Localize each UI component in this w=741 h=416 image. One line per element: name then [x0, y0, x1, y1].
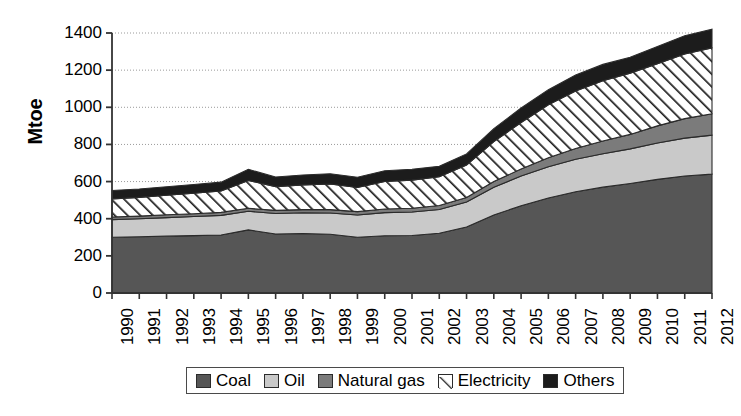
stacked-area-chart: Mtoe 1400120010008006004002000 199019911…	[0, 0, 741, 416]
oil-swatch	[264, 374, 279, 388]
x-tick-label: 1995	[255, 308, 272, 345]
electricity-swatch	[438, 374, 453, 388]
x-tick-label: 2010	[664, 308, 681, 345]
x-tick-label: 1996	[283, 308, 300, 345]
x-tick-label: 1999	[364, 308, 381, 345]
legend-item-others[interactable]: Others	[543, 372, 614, 389]
chart-legend: CoalOilNatural gasElectricityOthers	[186, 367, 624, 394]
x-tick-label: 2000	[392, 308, 409, 345]
x-tick-label: 1998	[337, 308, 354, 345]
coal-swatch	[196, 374, 211, 388]
x-tick-label: 1994	[228, 308, 245, 345]
x-tick-label: 1997	[310, 308, 327, 345]
legend-item-electricity[interactable]: Electricity	[438, 372, 531, 389]
legend-label: Others	[563, 372, 614, 389]
legend-label: Electricity	[458, 372, 531, 389]
x-tick-label: 2002	[446, 308, 463, 345]
x-tick-label: 2001	[419, 308, 436, 345]
x-tick-label: 2008	[610, 308, 627, 345]
x-tick-label: 1991	[146, 308, 163, 345]
x-axis-tick-labels: 1990199119921993199419951996199719981999…	[0, 0, 741, 416]
x-tick-label: 1992	[174, 308, 191, 345]
x-tick-label: 2007	[583, 308, 600, 345]
x-tick-label: 1990	[119, 308, 136, 345]
legend-label: Oil	[284, 372, 305, 389]
x-tick-label: 2009	[637, 308, 654, 345]
legend-item-natural-gas[interactable]: Natural gas	[318, 372, 425, 389]
legend-item-oil[interactable]: Oil	[264, 372, 305, 389]
legend-label: Natural gas	[338, 372, 425, 389]
x-tick-label: 2012	[719, 308, 736, 345]
legend-item-coal[interactable]: Coal	[196, 372, 251, 389]
legend-label: Coal	[216, 372, 251, 389]
x-tick-label: 1993	[201, 308, 218, 345]
x-tick-label: 2003	[474, 308, 491, 345]
natural-gas-swatch	[318, 374, 333, 388]
x-tick-label: 2006	[555, 308, 572, 345]
x-tick-label: 2011	[692, 310, 709, 345]
x-tick-label: 2005	[528, 308, 545, 345]
x-tick-label: 2004	[501, 308, 518, 345]
others-swatch	[543, 374, 558, 388]
